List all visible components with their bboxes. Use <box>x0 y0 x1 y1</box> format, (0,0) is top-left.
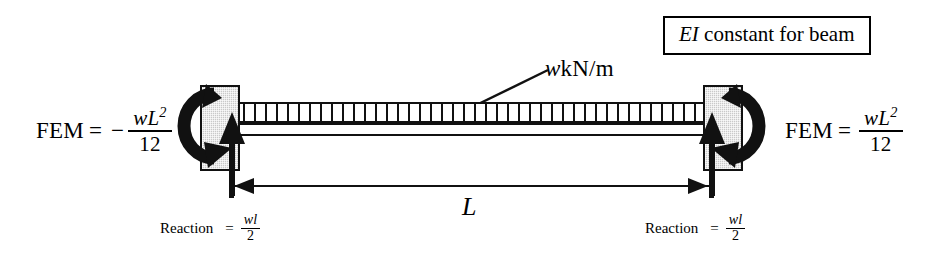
left-reaction-equals: = <box>225 221 233 236</box>
span-arrowhead-left <box>232 176 260 196</box>
beam-member <box>212 123 730 136</box>
left-reaction-label: Reaction <box>160 221 213 236</box>
right-reaction-label: Reaction <box>645 221 698 236</box>
left-reaction-denominator: 2 <box>244 229 257 244</box>
right-fem-fraction: wL2 12 <box>859 105 902 155</box>
right-reaction-denominator: 2 <box>729 229 742 244</box>
left-reaction-numerator: wl <box>241 213 260 228</box>
right-fem-equation: FEM = wL2 12 <box>785 105 903 155</box>
span-arrowhead-right <box>682 176 710 196</box>
left-reaction-fraction: wl 2 <box>241 213 260 244</box>
left-fem-equals: = <box>89 119 102 142</box>
right-reaction-caption: Reaction = wl 2 <box>645 213 745 244</box>
beam-diagram: EI constant for beam w kN/m <box>0 0 941 254</box>
span-dimension-line <box>234 185 710 187</box>
left-fem-num-var: wL <box>133 106 159 130</box>
left-fem-numerator: wL2 <box>128 105 171 130</box>
left-fem-num-exp: 2 <box>159 104 166 120</box>
right-reaction-equals: = <box>710 221 718 236</box>
right-fem-numerator: wL2 <box>859 105 902 130</box>
ei-note-caption: constant for beam <box>699 22 855 46</box>
left-reaction-caption: Reaction = wl 2 <box>160 213 260 244</box>
ei-note-box: EI constant for beam <box>663 16 871 55</box>
load-units: kN/m <box>561 57 614 80</box>
left-fem-label: FEM <box>36 119 84 142</box>
right-reaction-fraction: wl 2 <box>726 213 745 244</box>
ei-note-text: EI constant for beam <box>663 16 871 55</box>
right-fem-denominator: 12 <box>865 132 896 155</box>
right-fem-label: FEM <box>785 119 833 142</box>
left-fem-sign: − <box>111 119 124 142</box>
load-label: w kN/m <box>545 57 614 80</box>
left-fem-denominator: 12 <box>134 132 165 155</box>
right-fem-equals: = <box>838 119 851 142</box>
distributed-load-band <box>232 102 718 123</box>
left-fem-fraction: wL2 12 <box>128 105 171 155</box>
span-label: L <box>462 192 477 222</box>
ei-symbol: EI <box>679 22 699 46</box>
right-fem-num-exp: 2 <box>890 104 897 120</box>
right-fem-num-var: wL <box>864 106 890 130</box>
left-fem-equation: FEM = − wL2 12 <box>36 105 172 155</box>
right-reaction-numerator: wl <box>726 213 745 228</box>
